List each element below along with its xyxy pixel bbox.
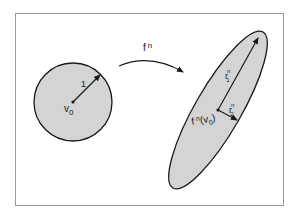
center-label-sub: 0 <box>69 108 74 117</box>
major-axis-label-sup: n <box>227 68 230 74</box>
radius-label: 1 <box>81 79 86 89</box>
map-label-sup: n <box>148 41 152 50</box>
map-label-f: f <box>143 42 146 53</box>
minor-axis-label-sup: n <box>231 102 234 108</box>
ellipsoid-mapping-diagram: 1 v0 fn rn1 rn2 fn(v0) <box>0 0 296 214</box>
unit-circle-group: 1 v0 <box>34 63 112 141</box>
